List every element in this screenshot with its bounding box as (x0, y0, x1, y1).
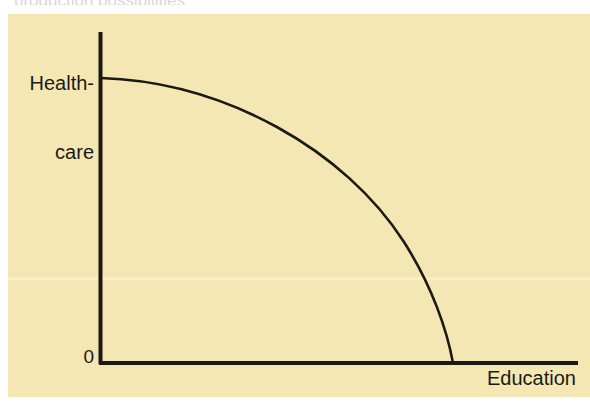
origin-tick-label: 0 (74, 345, 94, 368)
figure-root: production possibilities Health- care 0 … (0, 0, 590, 412)
y-axis-label-line1: Health- (18, 72, 94, 95)
ppf-curve (101, 78, 453, 363)
y-axis-label-line2: care (18, 141, 94, 164)
y-axis-label: Health- care (18, 26, 94, 210)
x-axis-label: Education (430, 367, 576, 390)
